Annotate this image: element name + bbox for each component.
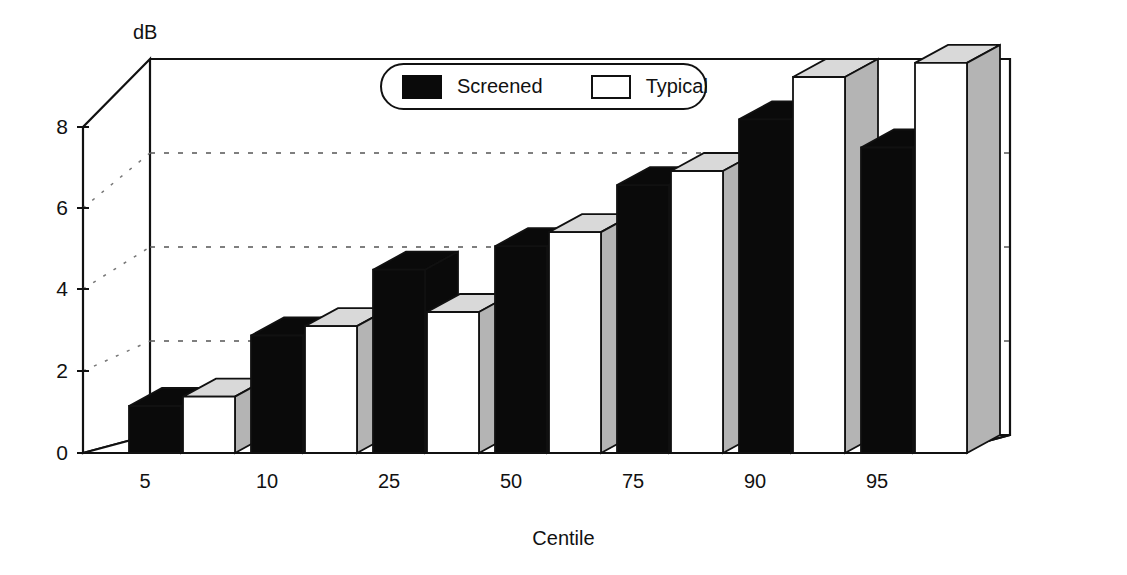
x-tick-label-5: 5	[110, 470, 180, 493]
chart-root: dB 0 2 4 6 8 5 10 25 50 75 90 95 Centile…	[0, 0, 1127, 575]
x-tick-label-90: 90	[720, 470, 790, 493]
filled-black-swatch-icon	[402, 75, 442, 99]
y-tick-label-4: 4	[34, 277, 68, 301]
y-tick-label-0: 0	[34, 441, 68, 465]
outlined-white-swatch-icon	[591, 75, 631, 99]
y-tick-label-2: 2	[34, 359, 68, 383]
chart-stage: dB 0 2 4 6 8 5 10 25 50 75 90 95 Centile…	[0, 0, 1127, 575]
legend-label-typical: Typical	[646, 75, 708, 98]
chart-legend: Screened Typical	[380, 63, 707, 110]
legend-item-typical[interactable]: Typical	[591, 75, 708, 99]
legend-label-screened: Screened	[457, 75, 543, 98]
y-tick-label-8: 8	[34, 115, 68, 139]
x-tick-label-75: 75	[598, 470, 668, 493]
x-tick-label-95: 95	[842, 470, 912, 493]
y-tick-label-6: 6	[34, 196, 68, 220]
x-tick-label-25: 25	[354, 470, 424, 493]
bar-typical-95[interactable]	[915, 45, 1000, 453]
y-axis-unit-label: dB	[133, 21, 157, 44]
x-tick-label-10: 10	[232, 470, 302, 493]
x-tick-label-50: 50	[476, 470, 546, 493]
legend-item-screened[interactable]: Screened	[402, 75, 543, 99]
x-axis-title: Centile	[0, 527, 1127, 550]
